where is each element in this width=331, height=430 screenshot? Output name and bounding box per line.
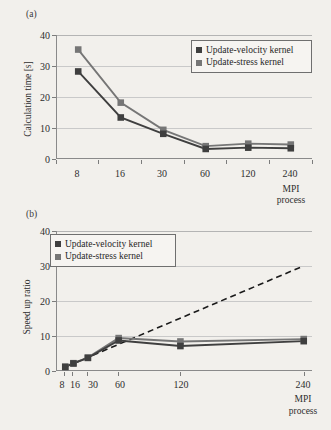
- panel-a-xtick-120: 120: [241, 168, 256, 179]
- panel-b-xtickmark-240: [304, 372, 305, 376]
- panel-b-legend-item-stress: Update-stress kernel: [55, 250, 169, 262]
- panel-a-xtickmark-3: [184, 160, 185, 164]
- panel-b-legend-label-velocity: Update-velocity kernel: [65, 238, 152, 250]
- panel-b-legend-label-stress: Update-stress kernel: [65, 250, 143, 262]
- figure-container: (a) Calculation time [s] 40 30 20 10 0: [0, 0, 331, 430]
- panel-a-ytick-10: 10: [28, 123, 50, 134]
- panel-a-xtick-30: 30: [157, 168, 167, 179]
- panel-b-ytick-30: 30: [28, 261, 50, 272]
- panel-b-xtickmark-30: [87, 372, 88, 376]
- panel-a-ytick-40: 40: [28, 30, 50, 41]
- panel-a-xtick-240: 240: [283, 168, 298, 179]
- panel-a-legend-item-velocity: Update-velocity kernel: [196, 44, 305, 56]
- panel-a-xtick-8: 8: [75, 168, 80, 179]
- panel-b-label: (b): [26, 209, 37, 219]
- panel-a-ytick-20: 20: [28, 92, 50, 103]
- panel-a-xtickmark-5: [269, 160, 270, 164]
- panel-a-legend-label-stress: Update-stress kernel: [206, 56, 284, 68]
- panel-b-ytick-40: 40: [28, 226, 50, 237]
- panel-b: (b) Speed up ratio 40 30 20 10 0: [0, 205, 331, 430]
- panel-b-x-axis-title-line1: MPI: [274, 394, 331, 405]
- panel-b-xtick-8: 8: [60, 379, 65, 390]
- panel-a-ytick-30: 30: [28, 61, 50, 72]
- panel-a: (a) Calculation time [s] 40 30 20 10 0: [0, 0, 331, 215]
- panel-a-legend-item-stress: Update-stress kernel: [196, 56, 305, 68]
- panel-b-xtick-30: 30: [88, 379, 98, 390]
- panel-b-legend-item-velocity: Update-velocity kernel: [55, 238, 169, 250]
- panel-b-ytickmark-40: [52, 231, 56, 232]
- panel-b-xtick-240: 240: [296, 379, 311, 390]
- panel-b-ytickmark-20: [52, 301, 56, 302]
- panel-b-xtick-60: 60: [115, 379, 125, 390]
- panel-a-x-axis-title-line1: MPI: [262, 184, 320, 195]
- panel-a-ytickmark-30: [52, 66, 56, 67]
- panel-a-xtickmark-1: [98, 160, 99, 164]
- panel-a-xtickmark-4: [226, 160, 227, 164]
- panel-a-legend-label-velocity: Update-velocity kernel: [206, 44, 293, 56]
- panel-a-xtickmark-6: [312, 160, 313, 164]
- panel-b-ytick-20: 20: [28, 296, 50, 307]
- panel-b-xtickmark-16: [72, 372, 73, 376]
- panel-b-velocity-line: [65, 340, 303, 366]
- velocity-swatch-icon: [196, 47, 202, 53]
- panel-a-ytick-0: 0: [28, 154, 50, 165]
- panel-a-xtickmark-0: [56, 160, 57, 164]
- stress-swatch-icon: [196, 60, 202, 66]
- panel-a-legend: Update-velocity kernel Update-stress ker…: [191, 40, 312, 73]
- panel-a-label: (a): [26, 9, 37, 19]
- panel-b-ytickmark-0: [52, 371, 56, 372]
- panel-b-ytick-0: 0: [28, 366, 50, 377]
- panel-a-ytickmark-10: [52, 128, 56, 129]
- panel-b-ytick-10: 10: [28, 331, 50, 342]
- stress-swatch-icon: [55, 254, 61, 260]
- velocity-swatch-icon: [55, 241, 61, 247]
- panel-b-ideal-line: [65, 266, 303, 367]
- panel-a-ytickmark-20: [52, 97, 56, 98]
- panel-b-xtick-120: 120: [174, 379, 189, 390]
- panel-b-y-axis-title: Speed up ratio: [22, 257, 32, 357]
- panel-b-legend: Update-velocity kernel Update-stress ker…: [50, 234, 176, 267]
- panel-b-x-axis-title-line2: process: [274, 406, 331, 417]
- panel-a-xtickmark-2: [141, 160, 142, 164]
- panel-a-ytickmark-40: [52, 35, 56, 36]
- panel-a-xtick-60: 60: [200, 168, 210, 179]
- panel-a-velocity-markers: [75, 68, 294, 152]
- panel-b-xtickmark-60: [118, 372, 119, 376]
- panel-b-xtick-16: 16: [70, 379, 80, 390]
- panel-b-xtickmark-120: [180, 372, 181, 376]
- panel-b-xtickmark-8: [64, 372, 65, 376]
- panel-a-xtick-16: 16: [115, 168, 125, 179]
- panel-b-ytickmark-10: [52, 336, 56, 337]
